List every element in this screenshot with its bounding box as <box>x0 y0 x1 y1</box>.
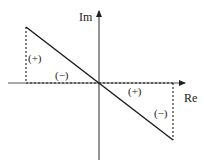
imaginary-axis-label: Im <box>79 10 93 24</box>
real-axis-label: Re <box>184 91 197 105</box>
sign-label-lower-right-plus: (+) <box>128 85 142 98</box>
sign-label-upper-left-plus: (+) <box>28 52 42 65</box>
complex-plane-diagram: Im Re (+) (−) (+) (−) <box>0 0 204 165</box>
sign-label-upper-left-minus: (−) <box>55 69 69 82</box>
sign-label-lower-right-minus: (−) <box>154 107 168 120</box>
